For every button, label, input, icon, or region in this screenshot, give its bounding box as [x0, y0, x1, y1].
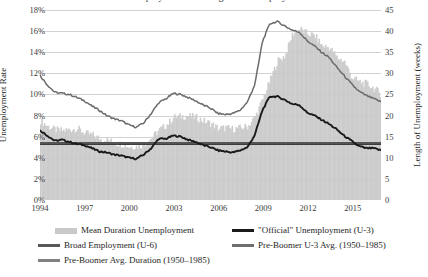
legend-swatch-line: [38, 244, 60, 247]
y-axis-right-tick-label: 45: [385, 6, 394, 15]
chart-root: Unemployment and Length of Unemployment …: [0, 0, 428, 277]
y-axis-left-tick-label: 18%: [29, 6, 45, 15]
legend-row: Broad Employment (U-6)Pre-Boomer U-3 Avg…: [0, 241, 428, 256]
y-axis-left-tick-label: 2%: [34, 175, 45, 184]
y-axis-left-tick-label: 10%: [29, 90, 45, 99]
chart-legend: Mean Duration Unemployment"Official" Une…: [0, 226, 428, 277]
duration-bars: [40, 27, 381, 200]
legend-label: Broad Employment (U-6): [64, 241, 157, 250]
legend-item[interactable]: Mean Duration Unemployment: [55, 226, 194, 235]
chart-title-cropped: Unemployment and Length of Unemployment: [0, 0, 428, 6]
x-axis-tick-label: 2006: [210, 204, 227, 213]
x-axis-tick-label: 2000: [121, 204, 138, 213]
y-axis-right-tick-label: 10: [385, 154, 394, 163]
y-axis-right-tick-label: 25: [385, 90, 394, 99]
x-axis-tick-label: 2015: [344, 204, 361, 213]
y-axis-right-tick-label: 30: [385, 69, 394, 78]
legend-label: Pre-Boomer U-3 Avg. (1950–1985): [258, 241, 386, 250]
legend-row: Pre-Boomer Avg. Duration (1950–1985): [0, 256, 428, 271]
y-axis-left-tick-label: 14%: [29, 48, 45, 57]
y-axis-right-tick-label: 40: [385, 27, 394, 36]
y-axis-right-tick-label: 0: [385, 196, 389, 205]
y-axis-left-tick-label: 6%: [34, 133, 45, 142]
y-axis-right-tick-label: 5: [385, 175, 389, 184]
legend-row: Mean Duration Unemployment"Official" Une…: [0, 226, 428, 241]
legend-swatch-line: [38, 259, 60, 262]
plot-area: [40, 10, 381, 200]
y-axis-right-title: Length of Unemployment (weeks): [412, 43, 422, 167]
x-axis-tick-label: 2012: [300, 204, 317, 213]
legend-item[interactable]: "Official" Unemployment (U-3): [232, 226, 374, 235]
legend-swatch-line: [232, 229, 254, 232]
x-axis-tick-label: 2009: [255, 204, 272, 213]
legend-item[interactable]: Pre-Boomer Avg. Duration (1950–1985): [38, 256, 210, 265]
series-plot: [40, 10, 381, 200]
legend-label: Pre-Boomer Avg. Duration (1950–1985): [64, 256, 210, 265]
legend-label: Mean Duration Unemployment: [81, 226, 194, 235]
y-axis-left-tick-label: 16%: [29, 27, 45, 36]
page-title: Unemployment and Length of Unemployment: [121, 0, 307, 2]
x-axis-tick-label: 1997: [76, 204, 93, 213]
legend-swatch-line: [232, 244, 254, 247]
y-axis-right-tick-label: 20: [385, 112, 394, 121]
y-axis-left-tick-label: 4%: [34, 154, 45, 163]
legend-item[interactable]: Pre-Boomer U-3 Avg. (1950–1985): [232, 241, 386, 250]
y-axis-right-tick-label: 15: [385, 133, 394, 142]
x-axis-tick-label: 1994: [32, 204, 49, 213]
legend-swatch-bar: [55, 228, 77, 234]
legend-item[interactable]: Broad Employment (U-6): [38, 241, 157, 250]
legend-label: "Official" Unemployment (U-3): [258, 226, 374, 235]
x-axis-tick-label: 2003: [166, 204, 183, 213]
y-axis-left-title: Unemployment Rate: [0, 68, 8, 143]
plot-clip: [40, 10, 381, 200]
y-axis-left-tick-label: 12%: [29, 69, 45, 78]
y-axis-left-tick-label: 8%: [34, 112, 45, 121]
y-axis-right-tick-label: 35: [385, 48, 394, 57]
